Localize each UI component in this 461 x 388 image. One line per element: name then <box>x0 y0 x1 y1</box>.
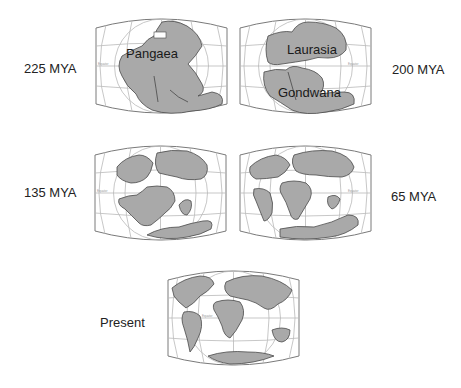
era-label-225-mya: 225 MYA <box>24 61 77 76</box>
svg-text:Equator: Equator <box>348 189 359 193</box>
svg-text:Equator: Equator <box>97 189 108 193</box>
map-200-mya: Equator Laurasia Gondwana <box>236 16 375 116</box>
present-day-map-graphic: Equator <box>164 268 303 368</box>
landmass-label-gondwana: Gondwana <box>278 85 341 100</box>
era-label-65-mya: 65 MYA <box>391 189 436 204</box>
era-label-present: Present <box>100 315 145 330</box>
svg-text:Equator: Equator <box>348 62 359 66</box>
map-225-mya: Equator Pangaea <box>92 16 231 116</box>
era-label-200-mya: 200 MYA <box>392 62 445 77</box>
landmass-label-pangaea: Pangaea <box>126 46 178 61</box>
map-65-mya: Equator <box>236 143 375 243</box>
cretaceous-map-graphic: Equator <box>91 143 230 243</box>
late-cretaceous-map-graphic: Equator <box>236 143 375 243</box>
map-135-mya: Equator <box>91 143 230 243</box>
map-present: Equator <box>164 268 303 368</box>
era-label-135-mya: 135 MYA <box>24 185 77 200</box>
pangaea-map-graphic: Equator <box>92 16 231 116</box>
svg-text:Equator: Equator <box>202 314 213 318</box>
landmass-label-laurasia: Laurasia <box>287 42 337 57</box>
svg-text:Equator: Equator <box>98 62 109 66</box>
laurasia-gondwana-map-graphic: Equator <box>236 16 375 116</box>
